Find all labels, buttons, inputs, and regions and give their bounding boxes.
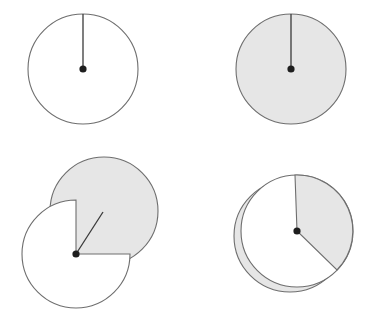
panel-white-disk [28,14,138,124]
pivot-dot [79,65,86,72]
panel-gray-disk [236,14,346,124]
pivot-dot [293,227,300,234]
panel-cutout-disks [22,157,158,308]
rotation-diagram [0,0,370,319]
pivot-dot [287,65,294,72]
panel-sector-disk [234,175,353,292]
pivot-dot [72,250,79,257]
